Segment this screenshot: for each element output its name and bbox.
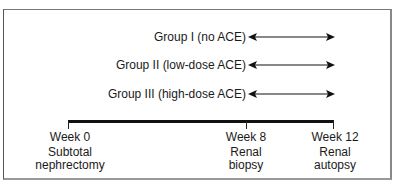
group-1-label: Group I (no ACE) [154, 30, 246, 44]
timepoint-week-12-desc-2: autopsy [303, 158, 367, 172]
timepoint-week-12-desc-1: Renal [303, 145, 367, 159]
timepoint-week-0-desc-1: Subtotal [30, 145, 110, 159]
timepoint-week-8-desc-1: Renal [216, 145, 276, 159]
tick-week-8 [246, 121, 247, 129]
group-2-label: Group II (low-dose ACE) [116, 58, 246, 72]
tick-week-0 [68, 121, 69, 129]
group-3-label: Group III (high-dose ACE) [108, 87, 246, 101]
timeline-axis [68, 120, 334, 123]
timepoint-week-12-label: Week 12 [303, 130, 367, 144]
timepoint-week-8-label: Week 8 [216, 130, 276, 144]
timepoint-week-0-label: Week 0 [40, 130, 100, 144]
double-arrow-icon [248, 32, 335, 42]
tick-week-12 [333, 121, 334, 129]
timepoint-week-8-desc-2: biopsy [216, 158, 276, 172]
double-arrow-icon [248, 60, 335, 70]
timepoint-week-0-desc-2: nephrectomy [30, 158, 110, 172]
double-arrow-icon [248, 89, 335, 99]
